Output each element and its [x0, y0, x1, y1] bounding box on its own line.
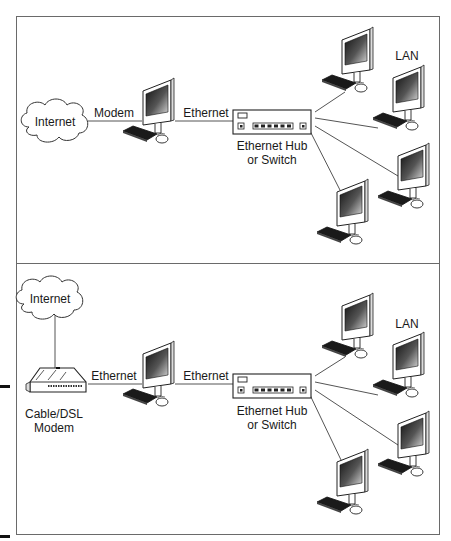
- lan-computer-icon: [322, 27, 373, 92]
- lan-link-line: [315, 390, 398, 445]
- internet-label: Internet: [30, 292, 71, 306]
- panel-broadband: Internet Cable/DSL Modem Ethernet Ethern…: [16, 276, 429, 514]
- ethernet-hub-icon: [233, 110, 311, 134]
- lan-computer-icon: [373, 332, 424, 397]
- hub-label-line2: or Switch: [247, 418, 296, 432]
- modem-label-line2: Modem: [34, 421, 74, 435]
- lan-computer-icon: [378, 143, 429, 208]
- hub-label-line1: Ethernet Hub: [237, 404, 308, 418]
- lan-computer-icon: [322, 293, 373, 358]
- internet-label: Internet: [35, 115, 76, 129]
- lan-computer-icon: [373, 65, 424, 130]
- lan-label: LAN: [395, 49, 418, 63]
- lan-link-line: [315, 92, 345, 112]
- ethernet-link-label: Ethernet: [91, 369, 137, 383]
- modem-link-label: Modem: [94, 106, 134, 120]
- panel-dialup: Internet Modem Ethernet Ethernet Hub or …: [21, 27, 429, 244]
- lan-link-line: [315, 126, 398, 176]
- lan-link-line: [310, 131, 342, 194]
- lan-label: LAN: [395, 317, 418, 331]
- lan-link-line: [315, 357, 345, 376]
- lan-link-line: [315, 118, 378, 128]
- network-diagram: Internet Modem Ethernet Ethernet Hub or …: [0, 0, 451, 541]
- lan-computer-icon: [378, 411, 429, 476]
- modem-label-line1: Cable/DSL: [25, 407, 83, 421]
- ethernet-link-label: Ethernet: [183, 106, 229, 120]
- lan-link-line: [315, 382, 378, 395]
- lan-computer-icon: [317, 449, 368, 514]
- lan-computer-icon: [317, 179, 368, 244]
- hub-label-line2: or Switch: [247, 153, 296, 167]
- ethernet-hub-icon: [233, 374, 311, 398]
- cable-modem-icon: [26, 368, 86, 392]
- hub-label-line1: Ethernet Hub: [237, 139, 308, 153]
- ethernet-link-label: Ethernet: [183, 369, 229, 383]
